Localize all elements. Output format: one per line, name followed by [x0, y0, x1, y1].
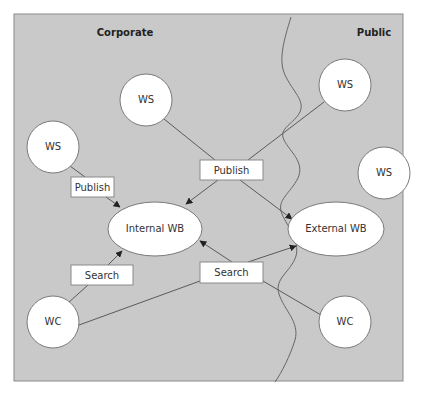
- node-internal-wb-label: Internal WB: [126, 223, 185, 234]
- zone-title-public: Public: [357, 27, 391, 38]
- node-ws-top-label: WS: [138, 94, 154, 105]
- node-ws-right-label: WS: [376, 167, 392, 178]
- search-label-center: Search: [200, 262, 263, 283]
- search-label-center-text: Search: [214, 267, 248, 278]
- node-external-wb: External WB: [288, 202, 384, 256]
- search-label-left-text: Search: [85, 270, 119, 281]
- node-wc-right-label: WC: [337, 316, 354, 327]
- node-ws-left: WS: [27, 121, 79, 173]
- node-external-wb-label: External WB: [305, 223, 367, 234]
- node-ws-top: WS: [120, 74, 172, 126]
- node-internal-wb: Internal WB: [108, 202, 202, 256]
- publish-label-center: Publish: [200, 160, 263, 180]
- zone-title-corporate: Corporate: [97, 27, 154, 38]
- web-broker-diagram: Corporate Public Publish Publish Search …: [0, 0, 442, 414]
- publish-label-center-text: Publish: [214, 165, 250, 176]
- publish-label-left-text: Publish: [75, 182, 111, 193]
- node-ws-right: WS: [358, 147, 410, 199]
- node-wc-right: WC: [319, 296, 371, 348]
- search-label-left: Search: [71, 265, 133, 285]
- node-ws-top-right-label: WS: [337, 79, 353, 90]
- node-wc-left-label: WC: [45, 316, 62, 327]
- node-ws-top-right: WS: [319, 59, 371, 111]
- node-ws-left-label: WS: [45, 141, 61, 152]
- node-wc-left: WC: [27, 296, 79, 348]
- publish-label-left: Publish: [71, 177, 114, 197]
